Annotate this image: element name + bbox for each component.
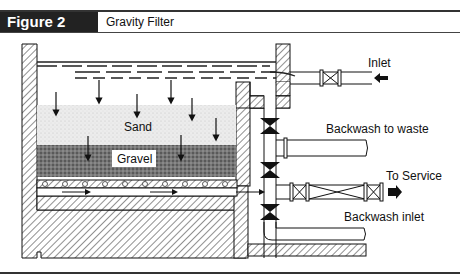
water-surface — [37, 62, 295, 78]
gravel-label: Gravel — [117, 152, 152, 166]
backwash-inlet-pipe — [264, 222, 366, 240]
sand-label: Sand — [124, 120, 152, 134]
service-arrow-icon — [388, 185, 402, 199]
backwash-waste-pipe — [276, 138, 368, 158]
underdrain — [37, 180, 262, 196]
inlet-arrow-icon — [374, 73, 388, 83]
backwash-to-waste-label: Backwash to waste — [326, 122, 429, 136]
backwash-inlet-label: Backwash inlet — [344, 210, 425, 224]
filter-floor — [37, 196, 237, 210]
bottom-rule — [0, 272, 460, 274]
gravity-filter-diagram: Sand Gravel Inlet Backwash to waste — [0, 0, 464, 280]
to-service-label: To Service — [386, 169, 442, 183]
inlet-label: Inlet — [368, 56, 391, 70]
inlet-pipe — [290, 70, 372, 86]
manifold-valves[interactable] — [260, 118, 280, 220]
service-pipe — [276, 183, 383, 201]
right-wall — [234, 44, 366, 258]
